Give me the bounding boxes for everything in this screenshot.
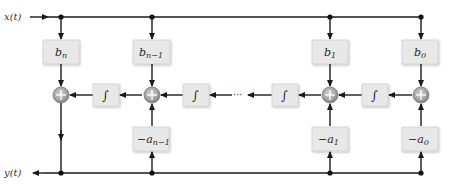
summing-junction-4 (413, 87, 429, 103)
integrator-symbol-2: ∫ (192, 88, 199, 103)
integrator-symbol-1: ∫ (102, 88, 109, 103)
summing-junction-1 (53, 87, 69, 103)
feedback-dot-a1 (327, 170, 332, 175)
integrator-symbol-3: ∫ (281, 88, 288, 103)
output-label: y(t) (3, 167, 22, 178)
input-label: x(t) (4, 11, 22, 22)
feedback-dot-an1 (149, 170, 154, 175)
integrator-symbol-4: ∫ (371, 88, 378, 103)
output-junction-dot (58, 170, 63, 175)
summing-junction-2 (144, 87, 160, 103)
ellipsis: ··· (233, 89, 243, 100)
block-diagram: x(t) y(t) bn ∫ bn−1 −an−1 ∫ ··· ∫ (0, 0, 452, 195)
summing-junction-3 (322, 87, 338, 103)
feedback-dot-a0 (418, 170, 423, 175)
